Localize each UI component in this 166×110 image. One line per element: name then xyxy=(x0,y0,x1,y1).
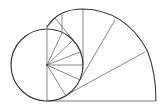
inner-spoke xyxy=(47,40,73,65)
inner-spokes xyxy=(47,29,83,101)
outer-spoke xyxy=(70,52,145,93)
spiral-diagram xyxy=(0,0,166,110)
outer-spoke xyxy=(55,18,73,40)
center-point xyxy=(46,64,48,66)
